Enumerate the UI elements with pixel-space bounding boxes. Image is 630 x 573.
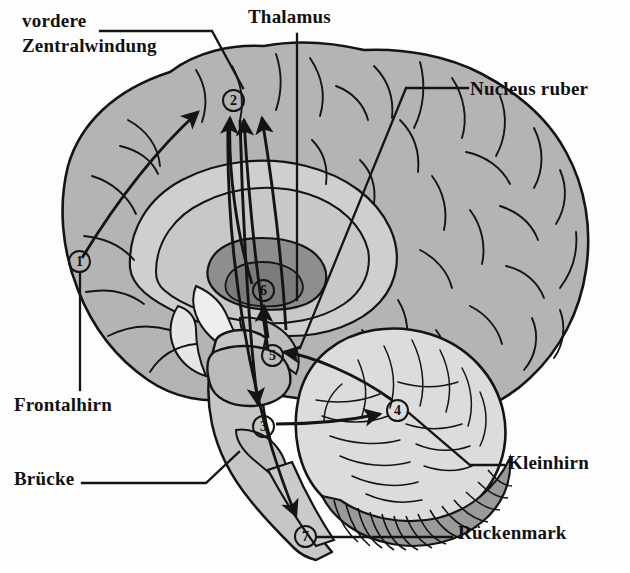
marker-6-label: 6 [260, 283, 267, 299]
marker-4-label: 4 [394, 403, 401, 419]
marker-1[interactable]: 1 [68, 250, 91, 273]
marker-7-label: 7 [302, 529, 309, 545]
label-rueckenmark: Rückenmark [458, 522, 567, 544]
label-bruecke: Brücke [14, 468, 74, 490]
marker-5[interactable]: 5 [261, 344, 284, 367]
label-vordere-line1: vordere [22, 10, 86, 31]
marker-3[interactable]: 3 [252, 415, 275, 438]
leader-bruecke [82, 452, 239, 483]
marker-6[interactable]: 6 [252, 279, 275, 302]
marker-7[interactable]: 7 [294, 525, 317, 548]
label-vordere-line2: Zentralwindung [22, 35, 157, 56]
marker-2-label: 2 [230, 93, 237, 109]
label-thalamus: Thalamus [248, 6, 331, 28]
marker-1-label: 1 [76, 254, 83, 270]
marker-2[interactable]: 2 [222, 89, 245, 112]
label-kleinhirn: Kleinhirn [508, 452, 589, 474]
marker-5-label: 5 [269, 348, 276, 364]
diagram-canvas: 1 2 3 4 5 6 7 vordere Zentralwindung Tha… [0, 0, 630, 573]
marker-3-label: 3 [260, 419, 267, 435]
label-frontalhirn: Frontalhirn [14, 394, 112, 416]
label-vordere-zentralwindung: vordere Zentralwindung [22, 8, 202, 58]
marker-4[interactable]: 4 [386, 399, 409, 422]
label-nucleus-ruber: Nucleus ruber [470, 78, 588, 100]
